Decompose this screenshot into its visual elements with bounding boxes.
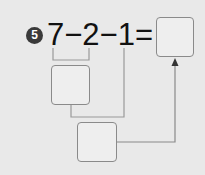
arrow-up-icon bbox=[172, 58, 179, 66]
problem-number-badge: 5 bbox=[26, 27, 43, 44]
second-step-box[interactable] bbox=[77, 122, 117, 162]
expression: 7−2−1= bbox=[47, 18, 153, 52]
first-step-box[interactable] bbox=[51, 65, 90, 105]
answer-box[interactable] bbox=[156, 17, 194, 57]
